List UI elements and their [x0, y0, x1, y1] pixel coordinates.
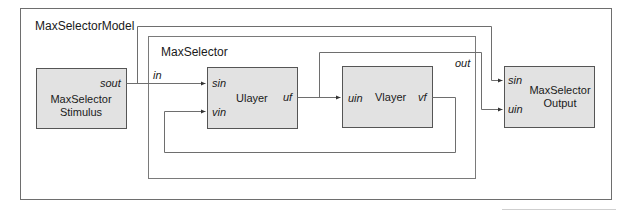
- ulayer-title: Ulayer: [236, 92, 268, 104]
- output-title-line2: Output: [520, 97, 600, 109]
- port-label-in: in: [153, 69, 162, 81]
- label-maxselectormodel: MaxSelectorModel: [35, 20, 134, 32]
- stimulus-title-line2: Stimulus: [36, 106, 126, 118]
- port-label-ulayer-uf: uf: [283, 91, 292, 103]
- port-label-ulayer-sin: sin: [212, 77, 226, 89]
- stimulus-title-line1: MaxSelector: [36, 93, 126, 105]
- port-label-ulayer-vin: vin: [212, 106, 226, 118]
- port-label-out: out: [455, 57, 470, 69]
- label-maxselector: MaxSelector: [161, 46, 228, 58]
- output-title-line1: MaxSelector: [520, 84, 600, 96]
- vlayer-title: Vlayer: [375, 91, 406, 103]
- port-label-vlayer-uin: uin: [348, 92, 363, 104]
- port-label-vlayer-vf: vf: [418, 91, 427, 103]
- port-label-sout: sout: [100, 77, 121, 89]
